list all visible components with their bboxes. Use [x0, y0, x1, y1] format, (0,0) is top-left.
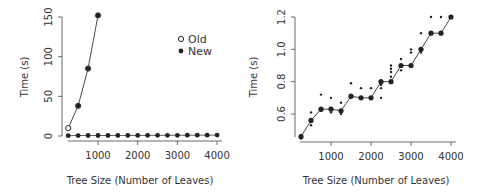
run-point	[390, 71, 392, 73]
y-tick-label: 1.2	[276, 9, 287, 25]
run-point	[390, 64, 392, 66]
left-x-ticks: 1000200030004000	[85, 141, 230, 161]
run-point	[430, 16, 432, 18]
run-point	[310, 111, 312, 113]
new-point	[185, 133, 190, 138]
old-series-line	[68, 15, 98, 128]
median-point	[448, 14, 453, 19]
run-point	[380, 87, 382, 89]
new-series-line	[68, 135, 217, 136]
new-point	[145, 133, 150, 138]
median-point	[308, 118, 313, 123]
y-tick-label: 0.8	[276, 74, 287, 90]
new-point	[215, 133, 220, 138]
median-point	[298, 134, 303, 139]
run-point	[370, 87, 372, 89]
legend-old-marker-icon	[178, 36, 183, 41]
run-point	[310, 124, 312, 126]
x-tick-label: 1000	[318, 151, 343, 162]
old-point-fill	[76, 104, 81, 109]
run-point	[390, 68, 392, 70]
run-point	[330, 97, 332, 99]
median-point	[378, 79, 383, 84]
left-chart: 050100150 1000200030004000 Tree Size (Nu…	[19, 7, 230, 186]
right-x-axis-title: Tree Size (Number of Leaves)	[302, 175, 450, 186]
right-chart: 0.60.81.01.2 1000200030004000 Tree Size …	[248, 9, 464, 186]
median-point	[328, 107, 333, 112]
old-point	[66, 125, 71, 130]
median-point	[338, 108, 343, 113]
right-y-axis-title: Time (s)	[248, 57, 259, 99]
new-point	[66, 133, 71, 138]
run-point	[400, 58, 402, 60]
new-point	[205, 133, 210, 138]
median-point	[398, 63, 403, 68]
median-point	[438, 31, 443, 36]
median-point	[418, 47, 423, 52]
right-y-ticks: 0.60.81.01.2	[276, 9, 295, 122]
median-point	[348, 94, 353, 99]
x-tick-label: 4000	[438, 151, 463, 162]
run-point	[340, 101, 342, 103]
new-point	[135, 133, 140, 138]
new-point	[175, 133, 180, 138]
x-tick-label: 1000	[85, 150, 110, 161]
y-tick-label: 1.0	[276, 41, 287, 57]
run-point	[320, 93, 322, 95]
median-point	[388, 79, 393, 84]
run-point	[410, 48, 412, 50]
new-point	[165, 133, 170, 138]
median-point	[318, 107, 323, 112]
median-point	[428, 31, 433, 36]
x-tick-label: 3000	[165, 150, 190, 161]
left-y-ticks: 050100150	[43, 7, 62, 139]
y-tick-label: 50	[43, 90, 54, 103]
legend-new-label: New	[188, 45, 212, 58]
y-tick-label: 100	[43, 47, 54, 66]
run-point	[410, 51, 412, 53]
new-point	[195, 133, 200, 138]
new-point	[115, 133, 120, 138]
x-tick-label: 2000	[358, 151, 383, 162]
y-tick-label: 150	[43, 7, 54, 26]
right-series	[298, 14, 453, 139]
x-tick-label: 3000	[398, 151, 423, 162]
new-point	[125, 133, 130, 138]
run-point	[380, 97, 382, 99]
left-y-axis-title: Time (s)	[19, 57, 30, 99]
y-tick-label: 0	[43, 133, 54, 139]
run-point	[400, 69, 402, 71]
median-point	[358, 95, 363, 100]
old-point-fill	[86, 66, 91, 71]
run-point	[420, 32, 422, 34]
run-point	[440, 16, 442, 18]
new-point	[155, 133, 160, 138]
median-point	[368, 95, 373, 100]
median-point	[408, 63, 413, 68]
legend-new-marker-icon	[179, 49, 184, 54]
median-line	[301, 17, 451, 137]
run-point	[390, 76, 392, 78]
x-tick-label: 4000	[204, 150, 229, 161]
figure: 050100150 1000200030004000 Tree Size (Nu…	[0, 0, 477, 196]
run-point	[360, 87, 362, 89]
new-point	[86, 133, 91, 138]
left-x-axis-title: Tree Size (Number of Leaves)	[66, 175, 214, 186]
right-x-ticks: 1000200030004000	[318, 142, 463, 162]
legend: Old New	[178, 33, 212, 58]
y-tick-label: 0.6	[276, 106, 287, 122]
x-tick-label: 2000	[125, 150, 150, 161]
new-point	[76, 133, 81, 138]
new-point	[96, 133, 101, 138]
new-point	[106, 133, 111, 138]
left-series	[66, 13, 220, 138]
old-point-fill	[96, 13, 101, 18]
run-point	[350, 82, 352, 84]
